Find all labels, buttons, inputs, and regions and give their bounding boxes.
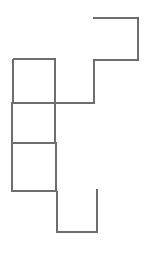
outline-figure-svg [0,0,151,254]
figure-canvas [0,0,151,254]
canvas-background [0,0,151,254]
